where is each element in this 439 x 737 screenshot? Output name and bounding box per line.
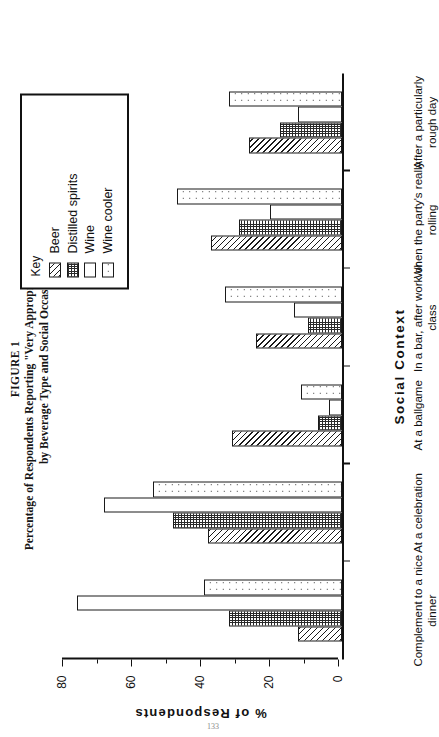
legend-item: Beer xyxy=(48,105,62,277)
bar-beer xyxy=(208,528,343,544)
bar-group xyxy=(229,91,343,153)
page-number: 133 xyxy=(0,722,426,731)
bar-wine xyxy=(77,595,343,611)
bar-distilled-spirits xyxy=(308,317,343,333)
category-tick xyxy=(344,169,350,170)
bar-group xyxy=(77,579,343,641)
category-tick xyxy=(344,365,350,366)
value-tick-0: 0 xyxy=(338,659,339,666)
bar-wine-cooler xyxy=(204,579,342,595)
legend-label: Beer xyxy=(48,227,62,253)
value-tick-label-40: 40 xyxy=(193,675,207,688)
category-axis-title: Social Context xyxy=(392,73,407,659)
legend-item: Distilled spirits xyxy=(66,105,80,277)
bar-beer xyxy=(298,626,343,642)
category-tick xyxy=(344,267,350,268)
value-tick-label-80: 80 xyxy=(55,675,69,688)
bar-group xyxy=(104,482,342,544)
bar-group xyxy=(232,384,342,446)
value-tick-60: 60 xyxy=(131,659,132,666)
value-tick-40: 40 xyxy=(200,659,201,666)
value-minor-tick-30 xyxy=(235,659,236,663)
bar-distilled-spirits xyxy=(318,415,342,431)
legend-label: Wine xyxy=(83,225,97,253)
bar-wine xyxy=(104,497,342,513)
legend-item: Wine cooler xyxy=(101,105,115,277)
category-tick xyxy=(344,560,350,561)
legend-title: Key xyxy=(29,105,43,276)
value-minor-tick-70 xyxy=(97,659,98,663)
legend-swatch-sparse-dots-icon xyxy=(102,262,114,277)
bar-wine xyxy=(270,204,342,220)
value-tick-label-60: 60 xyxy=(124,675,138,688)
bar-group xyxy=(225,286,342,348)
legend-label: Wine cooler xyxy=(101,187,115,253)
bar-distilled-spirits xyxy=(239,220,343,236)
bar-distilled-spirits xyxy=(229,610,343,626)
category-label: After a particularly rough day xyxy=(412,61,439,183)
bar-wine xyxy=(294,302,342,318)
bar-distilled-spirits xyxy=(280,122,342,138)
legend-label: Distilled spirits xyxy=(66,173,80,253)
bar-wine xyxy=(329,399,343,415)
value-minor-tick-10 xyxy=(304,659,305,663)
bar-beer xyxy=(256,333,342,349)
legend-box: Key BeerDistilled spiritsWineWine cooler xyxy=(20,93,129,289)
legend-swatch-diagonal-hatch-icon xyxy=(49,262,61,277)
bar-distilled-spirits xyxy=(173,513,342,529)
value-minor-tick-50 xyxy=(166,659,167,663)
value-tick-label-0: 0 xyxy=(331,675,345,682)
bar-beer xyxy=(232,430,342,446)
bar-wine-cooler xyxy=(229,91,343,107)
bar-group xyxy=(177,189,343,251)
legend-swatch-dense-grid-icon xyxy=(67,262,79,277)
bar-beer xyxy=(249,137,342,153)
bar-wine-cooler xyxy=(225,286,342,302)
bar-wine-cooler xyxy=(153,482,343,498)
value-axis-title-text: % of Respondents xyxy=(134,705,267,720)
value-tick-label-20: 20 xyxy=(262,675,276,688)
category-tick xyxy=(344,462,350,463)
value-tick-80: 80 xyxy=(62,659,63,666)
legend-items: BeerDistilled spiritsWineWine cooler xyxy=(48,105,115,277)
bar-wine xyxy=(298,106,343,122)
bar-beer xyxy=(211,235,342,251)
legend-item: Wine xyxy=(83,105,97,277)
value-axis-title: % of Respondents xyxy=(62,703,338,723)
bar-wine-cooler xyxy=(177,189,343,205)
bar-wine-cooler xyxy=(301,384,342,400)
legend-swatch-blank-icon xyxy=(84,262,96,277)
value-tick-20: 20 xyxy=(269,659,270,666)
